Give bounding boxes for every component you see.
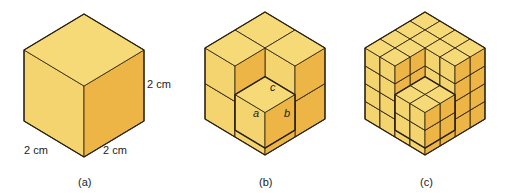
panel-a-cube	[24, 14, 144, 157]
panel-c-cube	[365, 12, 485, 155]
height-label: 2 cm	[147, 78, 171, 90]
face-label-c: c	[270, 81, 276, 93]
face-label-a: a	[253, 107, 259, 119]
right-width-label: 2 cm	[103, 144, 127, 156]
face-label-b: b	[284, 107, 290, 119]
left-width-label: 2 cm	[24, 144, 48, 156]
caption-c: (c)	[420, 176, 433, 188]
caption-b: (b)	[259, 176, 272, 188]
panel-b-cube	[205, 12, 325, 155]
caption-a: (a)	[78, 176, 91, 188]
cube-figure: 2 cm 2 cm 2 cm (a) (b) (c) abc	[0, 0, 507, 193]
